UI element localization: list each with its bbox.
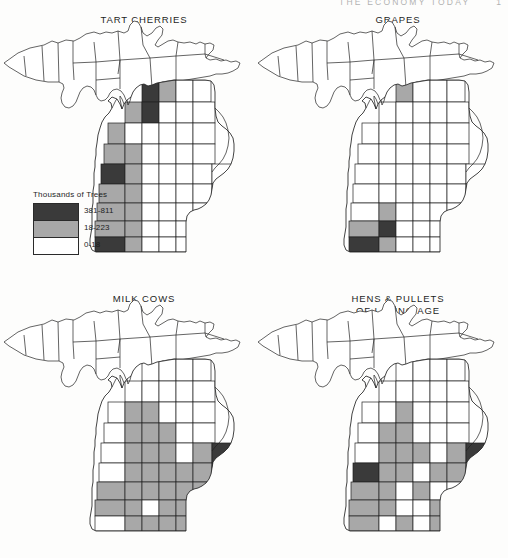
legend-swatch-light xyxy=(34,238,78,254)
legend-label: 0-18 xyxy=(84,240,100,249)
michigan-map-svg xyxy=(254,0,508,279)
michigan-map-svg xyxy=(0,279,254,558)
map-panel-grapes: GRAPES Thousands of Acres 6.0-7.0 0.1-0.… xyxy=(254,0,508,279)
legend-swatch-mid xyxy=(34,221,78,237)
legend-swatch-dark xyxy=(34,204,78,220)
legend-label: 18-223 xyxy=(84,223,110,232)
legend-item: 381-811 xyxy=(34,204,78,221)
legend-label: 381-811 xyxy=(84,206,113,215)
map-panel-milk-cows: MILK COWS Thousand Head 19.0-30.0 7.0-15… xyxy=(0,279,254,558)
legend-title: Thousands of Trees xyxy=(33,190,107,199)
map-panel-tart-cherries: TART CHERRIES Thousands of Trees 381-811… xyxy=(0,0,254,279)
map-panel-hens-and-pullets: HENS & PULLETS OF LAYING AGE Thousand Bi… xyxy=(254,279,508,558)
michigan-map-svg xyxy=(254,279,508,558)
legend-item: 18-223 xyxy=(34,221,78,238)
book-page: THE ECONOMY TODAY 1 TART CHERRIES Thousa… xyxy=(0,0,508,558)
map-legend: Thousands of Trees 381-811 18-223 0-18 xyxy=(33,190,107,255)
legend-swatch-list: 381-811 18-223 0-18 xyxy=(33,203,79,255)
legend-item: 0-18 xyxy=(34,238,78,254)
